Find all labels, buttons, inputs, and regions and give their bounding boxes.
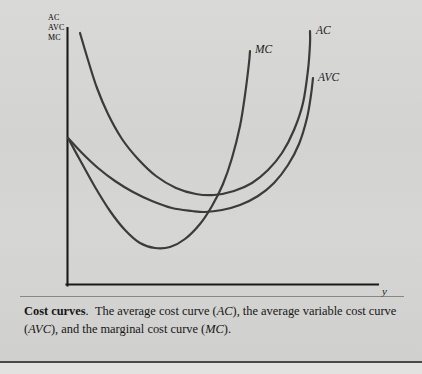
avc-curve-label: AVC [318, 72, 339, 84]
ac-curve [80, 31, 310, 195]
mc-curve-label: MC [255, 44, 272, 56]
cost-curves-plot [0, 0, 422, 300]
y-axis-label-group: AC AVC MC [48, 13, 64, 42]
ac-curve-label: AC [316, 25, 331, 37]
caption-title-punct: . [86, 304, 89, 318]
y-axis-label-mc: MC [48, 33, 64, 43]
page-bottom-strip [0, 363, 422, 374]
caption-avc: AVC [28, 322, 51, 336]
caption-divider [20, 296, 404, 297]
cost-curves-figure: AC AVC MC MC AC AVC y [0, 0, 422, 300]
y-axis-label-avc: AVC [48, 23, 64, 33]
caption-text-1: The average cost curve ( [95, 304, 217, 318]
caption-text-4: ). [224, 322, 231, 336]
caption-title: Cost curves [24, 304, 86, 318]
y-axis-label-ac: AC [48, 13, 64, 23]
caption-ac: AC [217, 304, 233, 318]
figure-caption: Cost curves. The average cost curve (AC)… [24, 303, 400, 338]
caption-mc: MC [205, 322, 224, 336]
figure-page: AC AVC MC MC AC AVC y Cost curves. The a… [0, 0, 422, 374]
caption-text-3: ), and the marginal cost curve ( [51, 322, 205, 336]
